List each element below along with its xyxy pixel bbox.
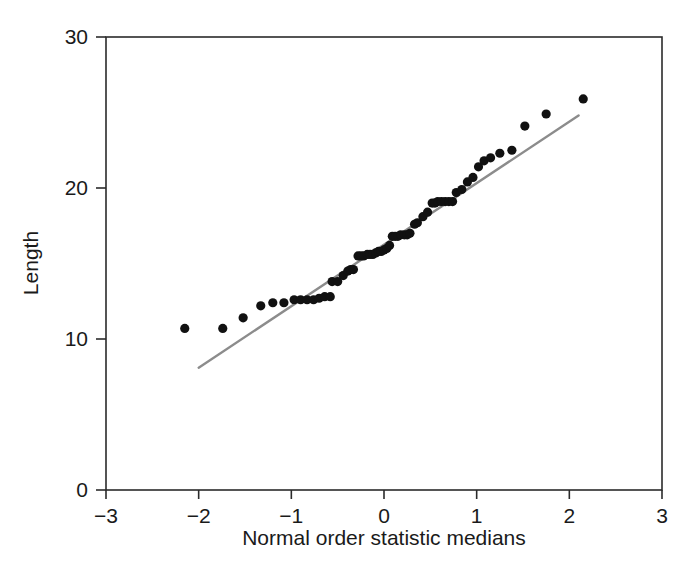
data-point — [448, 197, 457, 206]
x-tick-label: 1 — [471, 504, 483, 527]
data-point — [579, 94, 588, 103]
data-point — [486, 153, 495, 162]
y-axis-tick-labels: 0102030 — [65, 25, 88, 501]
qq-plot-figure: −3−2−10123 0102030 Normal order statisti… — [0, 0, 700, 575]
data-point — [457, 185, 466, 194]
x-axis-tick-labels: −3−2−10123 — [94, 504, 668, 527]
data-point — [423, 208, 432, 217]
data-point — [326, 292, 335, 301]
x-tick-label: 2 — [563, 504, 575, 527]
data-point — [385, 241, 394, 250]
data-point — [405, 229, 414, 238]
x-tick-label: 3 — [656, 504, 668, 527]
plot-frame — [106, 37, 662, 490]
x-tick-label: −1 — [279, 504, 303, 527]
data-point — [520, 121, 529, 130]
x-axis-title: Normal order statistic medians — [242, 526, 526, 549]
y-axis-title: Length — [19, 231, 42, 295]
x-tick-label: −3 — [94, 504, 118, 527]
data-point — [507, 146, 516, 155]
data-point — [180, 324, 189, 333]
data-point — [349, 265, 358, 274]
data-point — [279, 298, 288, 307]
y-tick-label: 0 — [76, 478, 88, 501]
y-axis-ticks — [96, 37, 106, 490]
plot-canvas: −3−2−10123 0102030 Normal order statisti… — [0, 0, 700, 575]
x-tick-label: 0 — [378, 504, 390, 527]
data-point — [256, 301, 265, 310]
data-point — [268, 298, 277, 307]
y-tick-label: 20 — [65, 176, 88, 199]
data-point — [542, 109, 551, 118]
y-tick-label: 30 — [65, 25, 88, 48]
x-axis-ticks — [106, 490, 662, 499]
data-point — [495, 149, 504, 158]
data-point — [218, 324, 227, 333]
x-tick-label: −2 — [187, 504, 211, 527]
data-point — [468, 173, 477, 182]
data-point — [239, 313, 248, 322]
y-tick-label: 10 — [65, 327, 88, 350]
scatter-series-points — [180, 94, 588, 333]
